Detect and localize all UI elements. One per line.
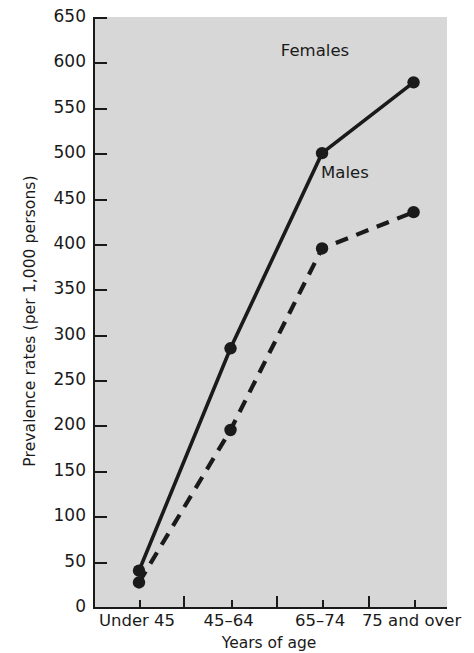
data-point-females xyxy=(316,147,328,159)
y-axis-tick-mark xyxy=(94,17,107,19)
y-axis-tick-mark xyxy=(94,62,107,64)
data-point-females xyxy=(407,76,419,88)
x-axis-tick-mark xyxy=(183,596,185,608)
y-axis-tick-mark xyxy=(94,153,107,155)
y-axis-tick-mark xyxy=(94,244,107,246)
x-axis-tick-mark xyxy=(322,600,324,608)
y-axis-tick-label: 600 xyxy=(28,53,86,70)
y-axis-tick-label: 150 xyxy=(28,462,86,479)
y-axis-tick-label: 50 xyxy=(28,553,86,570)
y-axis-tick-label: 200 xyxy=(28,416,86,433)
y-axis-tick-mark xyxy=(94,562,107,564)
x-axis-tick-mark xyxy=(414,600,416,608)
data-point-males xyxy=(407,206,419,218)
y-axis-tick-label: 250 xyxy=(28,371,86,388)
x-axis-tick-mark xyxy=(139,600,141,608)
y-axis-tick-mark xyxy=(94,471,107,473)
y-axis-tick-mark xyxy=(94,380,107,382)
y-axis-tick-mark xyxy=(94,425,107,427)
y-axis-tick-mark xyxy=(94,335,107,337)
plot-area: FemalesMales xyxy=(93,17,447,609)
y-axis-tick-label: 300 xyxy=(28,326,86,343)
data-point-males xyxy=(224,424,236,436)
x-axis-tick-label: 75 and over xyxy=(342,612,474,631)
x-axis-tick-mark xyxy=(231,600,233,608)
series-line-males xyxy=(139,212,414,582)
x-axis-tick-mark xyxy=(276,596,278,608)
y-axis-tick-mark xyxy=(94,199,107,201)
y-axis-tick-label: 100 xyxy=(28,507,86,524)
y-axis-tick-labels: 050100150200250300350400450500550600650 xyxy=(24,0,86,653)
y-axis-tick-mark xyxy=(94,108,107,110)
series-canvas xyxy=(95,17,447,607)
y-axis-tick-label: 550 xyxy=(28,99,86,116)
y-axis-tick-label: 350 xyxy=(28,280,86,297)
data-point-males xyxy=(133,576,145,588)
y-axis-tick-label: 400 xyxy=(28,235,86,252)
y-axis-tick-mark xyxy=(94,516,107,518)
y-axis-tick-label: 650 xyxy=(28,8,86,25)
y-axis-tick-mark xyxy=(94,289,107,291)
series-label-females: Females xyxy=(281,41,349,60)
y-axis-tick-label: 450 xyxy=(28,190,86,207)
data-point-males xyxy=(316,242,328,254)
y-axis-tick-label: 500 xyxy=(28,144,86,161)
series-label-males: Males xyxy=(321,163,369,182)
x-axis-title: Years of age xyxy=(93,634,445,652)
prevalence-rates-line-chart: Prevalence rates (per 1,000 persons) 050… xyxy=(0,0,474,653)
series-line-females xyxy=(139,82,414,570)
data-point-females xyxy=(224,342,236,354)
x-axis-tick-mark xyxy=(368,596,370,608)
